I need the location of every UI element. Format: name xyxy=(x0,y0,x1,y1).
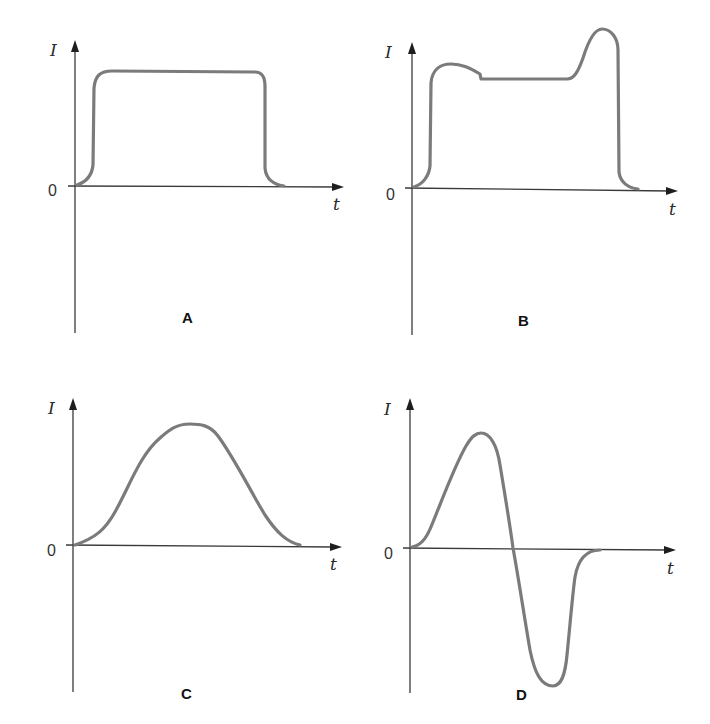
y-axis-arrow-icon xyxy=(408,42,416,54)
origin-label: 0 xyxy=(386,186,395,203)
x-axis-label: t xyxy=(333,194,340,214)
panel-a: I t 0 A xyxy=(48,40,344,333)
current-curve xyxy=(412,433,600,686)
y-axis-arrow-icon xyxy=(69,398,77,410)
panel-label: D xyxy=(516,686,527,703)
panel-label: C xyxy=(181,685,192,702)
origin-label: 0 xyxy=(48,182,57,199)
current-curve xyxy=(414,29,638,189)
x-axis xyxy=(68,186,336,187)
current-pulse-diagram: I t 0 A I t 0 B I t 0 C I t 0 xyxy=(0,0,710,724)
current-curve xyxy=(77,71,284,186)
x-axis-arrow-icon xyxy=(664,546,676,554)
x-axis-arrow-icon xyxy=(330,543,342,551)
y-axis-label: I xyxy=(47,398,55,418)
panel-b: I t 0 B xyxy=(384,29,678,335)
panel-label: A xyxy=(182,309,193,326)
x-axis-label: t xyxy=(667,558,674,578)
panel-label: B xyxy=(518,312,529,329)
origin-label: 0 xyxy=(47,542,56,559)
x-axis xyxy=(66,545,334,547)
x-axis-label: t xyxy=(669,199,676,219)
x-axis-label: t xyxy=(330,554,337,574)
y-axis-label: I xyxy=(49,40,57,60)
origin-label: 0 xyxy=(384,545,393,562)
panel-c: I t 0 C xyxy=(47,398,342,702)
x-axis-arrow-icon xyxy=(666,187,678,195)
y-axis-label: I xyxy=(384,42,392,62)
panel-d: I t 0 D xyxy=(383,398,676,703)
x-axis-arrow-icon xyxy=(332,183,344,191)
y-axis-arrow-icon xyxy=(71,40,79,52)
current-curve xyxy=(75,424,300,545)
y-axis-arrow-icon xyxy=(406,398,414,410)
x-axis xyxy=(403,548,668,550)
y-axis-label: I xyxy=(383,399,391,419)
